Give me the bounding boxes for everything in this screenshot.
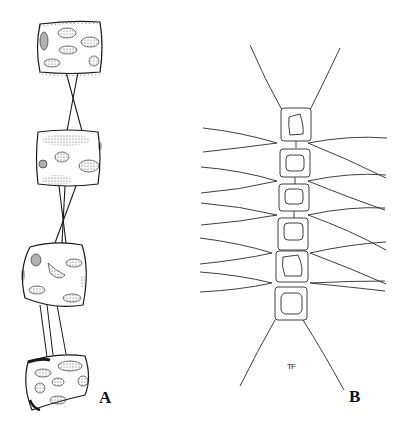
artist-initials: TF xyxy=(287,362,295,371)
filament-cells xyxy=(275,108,311,320)
panel-label-a: A xyxy=(99,388,111,408)
panel-a-drawing xyxy=(21,21,102,410)
cell-a3 xyxy=(21,243,86,307)
cell-a1 xyxy=(38,21,103,75)
figure-canvas xyxy=(0,0,405,426)
cell-a4 xyxy=(26,355,89,410)
panel-b-drawing xyxy=(200,45,387,390)
cell-a2 xyxy=(37,130,103,186)
panel-label-b: B xyxy=(349,387,360,407)
